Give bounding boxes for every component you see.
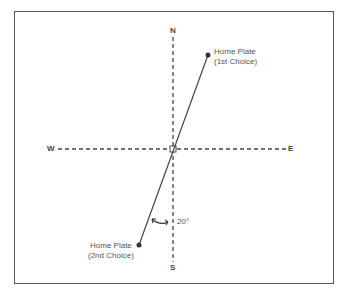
west-label: W	[47, 144, 55, 153]
south-label: S	[170, 263, 175, 272]
label-line: (2nd Choice)	[88, 251, 134, 261]
home-plate-line	[139, 55, 208, 245]
label-line: Home Plate	[214, 47, 257, 57]
home-plate-1st-dot	[206, 53, 211, 58]
home-plate-1st-label: Home Plate (1st Choice)	[214, 47, 257, 67]
home-plate-2nd-dot	[137, 243, 142, 248]
angle-label: 20°	[177, 217, 189, 227]
north-label: N	[170, 26, 176, 35]
label-line: (1st Choice)	[214, 57, 257, 67]
label-line: Home Plate	[88, 241, 134, 251]
east-label: E	[288, 144, 293, 153]
angle-arrow-icon	[152, 219, 168, 223]
home-plate-2nd-label: Home Plate (2nd Choice)	[88, 241, 134, 261]
